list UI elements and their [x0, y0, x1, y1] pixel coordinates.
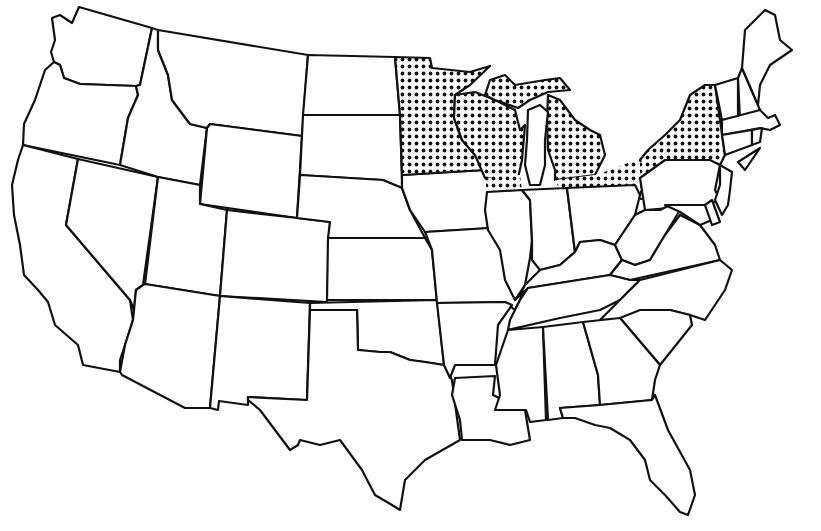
us-map-svg — [0, 0, 821, 531]
state-north-dakota — [303, 55, 400, 115]
us-map — [0, 0, 821, 531]
state-kansas — [327, 238, 437, 300]
state-colorado — [220, 210, 330, 302]
state-new-mexico — [210, 296, 310, 410]
state-rhode-island — [752, 128, 762, 145]
state-wyoming — [200, 124, 302, 218]
state-connecticut — [722, 130, 752, 155]
state-florida — [560, 395, 695, 515]
state-mississippi — [495, 327, 546, 422]
lake-michigan — [525, 105, 548, 185]
state-michigan-lower — [547, 95, 605, 180]
state-washington — [51, 7, 152, 86]
long-island — [738, 148, 760, 170]
state-arizona — [120, 284, 220, 408]
